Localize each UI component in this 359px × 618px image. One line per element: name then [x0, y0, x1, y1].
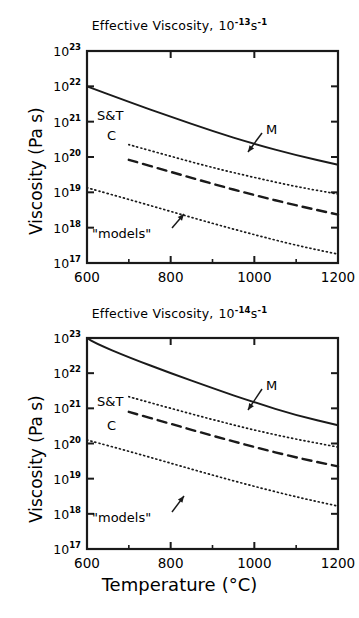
series-curve-c: [129, 160, 338, 215]
x-tick-label: 800: [158, 269, 184, 285]
series-curve-m: [87, 338, 338, 425]
y-tick-label: 1020: [3, 150, 81, 165]
y-tick-label: 1021: [3, 401, 81, 416]
y-tick-label: 1018: [3, 220, 81, 235]
curve-annotation-models: "models": [92, 226, 151, 241]
x-tick-label: 600: [74, 555, 100, 571]
x-tick-label: 1000: [237, 269, 271, 285]
x-axis-label-text: Temperature: [102, 574, 216, 595]
y-tick-label: 1022: [3, 79, 81, 94]
x-tick-label: 1200: [321, 555, 355, 571]
y-tick-label: 1017: [3, 542, 81, 557]
curve-annotation-st: S&T: [97, 108, 123, 123]
x-tick-label: 1200: [321, 269, 355, 285]
annotation-arrow-head: [248, 403, 254, 410]
series-curve-models: [87, 188, 338, 254]
curve-annotation-m: M: [266, 378, 277, 393]
curve-annotation-c: C: [107, 418, 116, 433]
chart-panel-top: Effective Viscosity,10-13s-1 Viscosity (…: [0, 0, 359, 300]
y-tick-label: 1017: [3, 256, 81, 271]
chart-panel-bottom: Effective Viscosity,10-14s-1 Viscosity (…: [0, 288, 359, 618]
series-curve-c: [129, 412, 338, 467]
curve-annotation-m: M: [266, 122, 277, 137]
curve-annotation-st: S&T: [97, 394, 123, 409]
y-tick-label: 1020: [3, 436, 81, 451]
y-tick-label: 1023: [3, 331, 81, 346]
y-tick-label: 1023: [3, 44, 81, 59]
series-curve-m: [87, 86, 338, 164]
curve-annotation-models: "models": [92, 510, 151, 525]
figure-effective-viscosity: Effective Viscosity,10-13s-1 Viscosity (…: [0, 0, 359, 618]
x-axis-label-unit: (°C): [222, 574, 258, 595]
y-tick-label: 1019: [3, 471, 81, 486]
y-tick-label: 1018: [3, 506, 81, 521]
y-tick-label: 1019: [3, 185, 81, 200]
series-curve-models: [87, 440, 338, 506]
y-tick-label: 1022: [3, 366, 81, 381]
x-tick-label: 600: [74, 269, 100, 285]
x-tick-label: 1000: [237, 555, 271, 571]
x-axis-label: Temperature(°C): [0, 574, 359, 595]
curve-annotation-c: C: [107, 128, 116, 143]
y-tick-label: 1021: [3, 114, 81, 129]
x-tick-label: 800: [158, 555, 184, 571]
